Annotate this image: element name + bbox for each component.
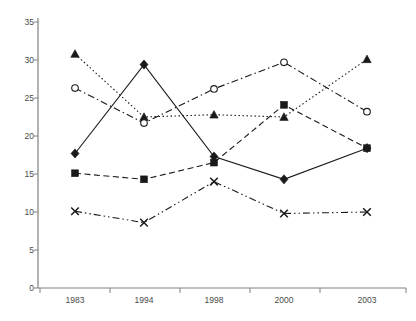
series-open-circle-line [75, 62, 367, 123]
plot-area [0, 0, 416, 321]
data-point-open-circle [281, 59, 288, 66]
data-point-square [211, 159, 218, 166]
x-tick-label-2000: 2000 [261, 295, 307, 305]
series-open-circle [72, 59, 371, 126]
data-point-open-circle [211, 86, 218, 93]
data-point-triangle [71, 50, 79, 58]
x-tick-label-1983: 1983 [52, 295, 98, 305]
data-point-square [281, 101, 288, 108]
series-cross-line [75, 182, 367, 223]
x-tick-label-1998: 1998 [191, 295, 237, 305]
data-point-diamond [280, 175, 288, 184]
data-point-triangle [280, 113, 288, 121]
x-tick-label-1994: 1994 [121, 295, 167, 305]
data-point-square [72, 170, 79, 177]
data-point-x [210, 178, 218, 186]
data-point-open-circle [141, 120, 148, 127]
y-tick-label-0: 0 [12, 283, 34, 293]
y-tick-label-35: 35 [12, 17, 34, 27]
y-tick-label-20: 20 [12, 131, 34, 141]
data-point-square [364, 145, 371, 152]
series-square [72, 101, 371, 182]
x-tick-label-2003: 2003 [344, 295, 390, 305]
y-tick-label-30: 30 [12, 55, 34, 65]
line-chart: 35 30 25 20 15 10 5 0 1983 1994 1998 200… [0, 0, 416, 321]
series-diamond-line [75, 65, 367, 180]
y-tick-label-15: 15 [12, 169, 34, 179]
series-triangle [71, 50, 371, 121]
data-point-open-circle [364, 108, 371, 115]
data-point-open-circle [72, 85, 79, 92]
data-point-triangle [363, 55, 371, 63]
y-tick-label-25: 25 [12, 93, 34, 103]
series-square-line [75, 105, 367, 179]
series-cross [71, 178, 371, 227]
y-tick-label-10: 10 [12, 207, 34, 217]
data-point-square [141, 176, 148, 183]
series-diamond [71, 60, 371, 184]
y-tick-label-5: 5 [12, 245, 34, 255]
